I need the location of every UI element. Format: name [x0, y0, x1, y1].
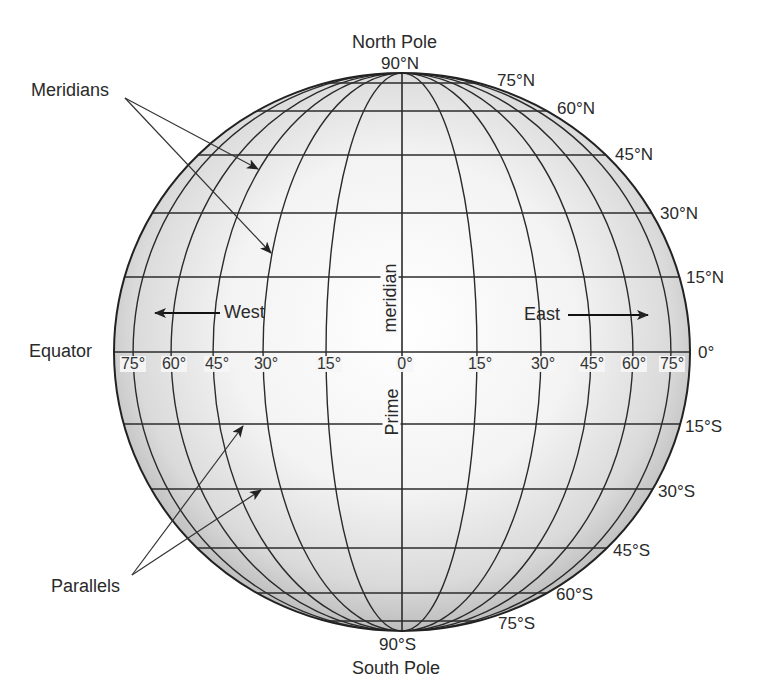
longitude-label-60w: 60° [161, 356, 187, 372]
latitude-label-75n: 75°N [497, 72, 535, 89]
latitude-label-equator: 0° [698, 344, 714, 361]
north-pole-latitude: 90°N [381, 55, 419, 72]
longitude-label-75w: 75° [120, 356, 146, 372]
latitude-label-45n: 45°N [615, 146, 653, 163]
longitude-label-45w: 45° [204, 356, 230, 372]
longitude-label-60e: 60° [621, 356, 647, 372]
latitude-label-75s: 75°S [498, 615, 535, 632]
meridians-label: Meridians [31, 81, 109, 99]
longitude-label-0: 0° [396, 356, 413, 372]
longitude-label-30w: 30° [253, 356, 279, 372]
longitude-label-45e: 45° [579, 356, 605, 372]
east-label: East [524, 305, 560, 323]
prime-meridian-label-top: meridian [381, 260, 399, 335]
latitude-label-15n: 15°N [686, 269, 724, 286]
prime-meridian-label-bottom: Prime [383, 385, 401, 438]
longitude-label-15e: 15° [467, 356, 493, 372]
latitude-label-30s: 30°S [658, 483, 695, 500]
equator-label: Equator [29, 342, 92, 360]
north-pole-label: North Pole [352, 33, 437, 51]
parallels-label: Parallels [51, 577, 120, 595]
south-pole-label: South Pole [352, 659, 440, 677]
latitude-label-45s: 45°S [613, 542, 650, 559]
longitude-label-75e: 75° [659, 356, 685, 372]
latitude-label-60n: 60°N [557, 100, 595, 117]
latitude-label-60s: 60°S [556, 586, 593, 603]
latitude-label-30n: 30°N [660, 205, 698, 222]
south-pole-latitude: 90°S [379, 636, 416, 653]
latitude-label-15s: 15°S [685, 418, 722, 435]
longitude-label-30e: 30° [530, 356, 556, 372]
longitude-label-15w: 15° [316, 356, 342, 372]
west-label: West [224, 303, 265, 321]
